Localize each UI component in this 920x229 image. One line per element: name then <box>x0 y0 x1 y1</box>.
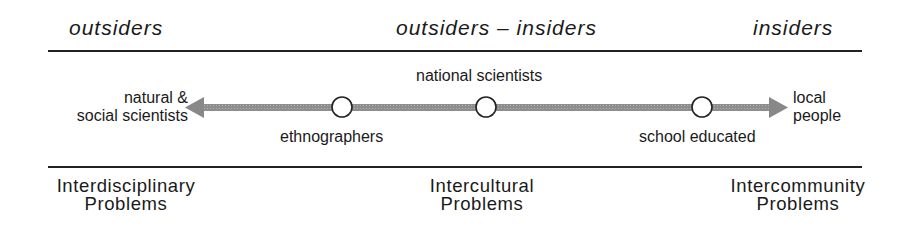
label-national-scientists: national scientists <box>416 67 542 85</box>
node-national-scientists <box>476 97 496 117</box>
left-end-line2: social scientists <box>77 107 188 125</box>
node-school-educated <box>692 97 712 117</box>
left-end-line1: natural & <box>77 89 188 107</box>
bottom-divider <box>48 166 862 168</box>
footer-interdisciplinary-line2: Problems <box>44 195 208 213</box>
label-school-educated: school educated <box>639 128 756 146</box>
footer-intercultural: Intercultural Problems <box>417 177 547 213</box>
footer-intercommunity: Intercommunity Problems <box>718 177 878 213</box>
footer-intercommunity-line2: Problems <box>718 195 878 213</box>
left-end-label: natural & social scientists <box>77 89 188 125</box>
right-end-line1: local <box>793 89 841 107</box>
right-end-line2: people <box>793 107 841 125</box>
node-ethnographers <box>332 97 352 117</box>
right-end-label: local people <box>793 89 841 125</box>
footer-intercultural-line2: Problems <box>417 195 547 213</box>
footer-interdisciplinary: Interdisciplinary Problems <box>44 177 208 213</box>
label-ethnographers: ethnographers <box>280 128 383 146</box>
